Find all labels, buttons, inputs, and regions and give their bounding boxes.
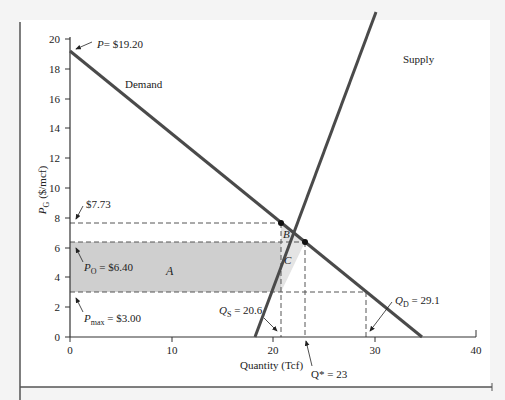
qstar-label: Q* = 23 — [311, 368, 348, 380]
qd-label: QD = 29.1 — [395, 294, 440, 309]
point-equilibrium — [302, 239, 308, 245]
svg-text:0: 0 — [55, 331, 61, 343]
y-ticks — [65, 39, 70, 337]
figure-page: 0 2 4 6 8 10 12 14 16 18 20 0 10 20 30 4… — [0, 0, 505, 400]
supply-demand-chart: 0 2 4 6 8 10 12 14 16 18 20 0 10 20 30 4… — [0, 0, 505, 400]
p773-arrow — [76, 206, 83, 219]
svg-text:30: 30 — [370, 344, 382, 356]
p-intercept-label: P= $19.20 — [96, 38, 143, 50]
svg-text:20: 20 — [268, 344, 280, 356]
p-intercept-arrow — [76, 42, 92, 49]
svg-text:4: 4 — [55, 271, 61, 283]
svg-text:12: 12 — [49, 152, 60, 164]
svg-text:0: 0 — [67, 344, 73, 356]
svg-text:20: 20 — [49, 33, 61, 45]
p773-label: $7.73 — [86, 198, 111, 210]
pmax-arrow — [76, 298, 83, 312]
svg-text:2: 2 — [55, 301, 61, 313]
x-axis-title: Quantity (Tcf) — [240, 359, 303, 372]
svg-text:18: 18 — [49, 63, 61, 75]
area-c-shade — [281, 242, 305, 292]
demand-label: Demand — [125, 78, 163, 90]
qs-arrow — [264, 318, 277, 331]
demand-curve — [70, 51, 422, 337]
svg-text:6: 6 — [55, 242, 61, 254]
y-tick-labels: 0 2 4 6 8 10 12 14 16 18 20 — [49, 33, 61, 343]
x-ticks — [70, 337, 375, 342]
pmax-label: Pmax = $3.00 — [83, 312, 141, 327]
area-b-label: B — [283, 228, 290, 240]
svg-text:10: 10 — [49, 182, 61, 194]
svg-text:10: 10 — [167, 344, 179, 356]
supply-label: Supply — [403, 53, 435, 65]
qd-arrow — [370, 302, 392, 331]
svg-text:16: 16 — [49, 93, 61, 105]
area-a-label: A — [165, 264, 174, 278]
svg-text:14: 14 — [49, 122, 61, 134]
qs-label: QS = 20.6 — [219, 304, 263, 319]
x-tick-labels: 0 10 20 30 40 — [67, 344, 482, 356]
supply-curve — [255, 12, 376, 337]
point-qs-773 — [278, 220, 284, 226]
area-c-label: C — [284, 254, 292, 266]
svg-text:8: 8 — [55, 212, 61, 224]
svg-text:40: 40 — [471, 344, 483, 356]
qstar-arrow — [306, 341, 312, 366]
